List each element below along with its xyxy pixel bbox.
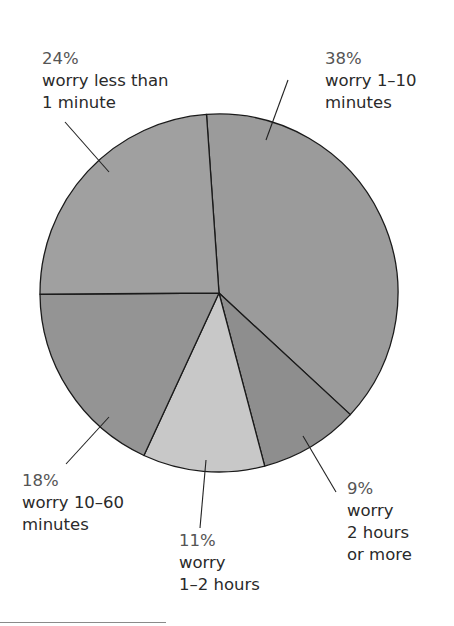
slice-label-less-than-1-minute: 24% worry less than 1 minute xyxy=(42,48,169,114)
leader-line xyxy=(66,417,109,464)
slice-label-2-hours-or-more: 9% worry 2 hours or more xyxy=(347,478,412,566)
leader-line xyxy=(65,122,109,172)
slice-label-10-60-minutes: 18% worry 10–60 minutes xyxy=(22,470,124,536)
footnote-rule xyxy=(0,622,166,623)
slice-label-1-2-hours: 11% worry 1–2 hours xyxy=(179,530,260,596)
pie-slice xyxy=(40,114,219,294)
leader-line xyxy=(303,436,336,492)
slice-label-1-10-minutes: 38% worry 1–10 minutes xyxy=(325,48,417,114)
pie-slices xyxy=(40,114,398,472)
